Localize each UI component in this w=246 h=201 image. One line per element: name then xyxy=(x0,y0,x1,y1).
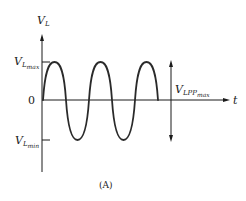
arrow-up-icon xyxy=(169,60,173,67)
waveform-diagram: VL t VLmax 0 VLmin VLPPmax (A) xyxy=(0,0,246,201)
y-axis-arrow-icon xyxy=(40,34,44,41)
y-axis xyxy=(40,34,44,172)
peak-to-peak-arrow xyxy=(169,60,173,142)
y-axis-label: VL xyxy=(37,15,50,26)
x-axis-arrow-icon xyxy=(223,98,230,102)
x-axis-label: t xyxy=(233,95,237,106)
vmin-label: VLmin xyxy=(15,135,39,146)
sine-waveform xyxy=(43,62,158,140)
figure-caption: (A) xyxy=(99,180,113,190)
zero-label: 0 xyxy=(28,95,35,106)
vmax-label: VLmax xyxy=(14,56,39,67)
diagram-canvas xyxy=(0,0,246,201)
arrow-down-icon xyxy=(169,135,173,142)
x-axis xyxy=(42,98,230,102)
peak-to-peak-label: VLPPmax xyxy=(175,84,210,95)
